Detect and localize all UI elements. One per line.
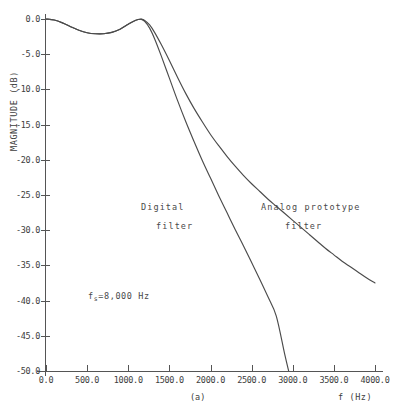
y-tick-mark [41,336,50,337]
y-tick-label: -5.0 [0,49,40,59]
y-tick-label: -20.0 [0,155,40,165]
y-tick-label: -10.0 [0,84,40,94]
y-tick-mark [41,265,50,266]
x-tick-mark [293,365,294,372]
y-tick-label: -35.0 [0,260,40,270]
y-tick-label: -15.0 [0,120,40,130]
y-tick-mark [41,160,50,161]
x-tick-mark [169,365,170,372]
x-axis-title: f (Hz) [338,392,372,402]
sampling-frequency-annotation: fs=8,000 Hz [88,291,150,303]
y-tick-label: -25.0 [0,190,40,200]
analog-prototype-filter-curve [46,19,375,283]
x-tick-mark [87,365,88,372]
x-tick-mark [211,365,212,372]
y-tick-label: -40.0 [0,296,40,306]
y-tick-mark [41,54,50,55]
y-tick-label: -45.0 [0,331,40,341]
sampling-frequency-value: =8,000 Hz [98,291,149,301]
analog-filter-label-line2: filter [285,221,322,231]
y-axis-title: MAGNITUDE (dB) [9,51,19,171]
x-tick-mark [334,365,335,372]
figure-caption: (a) [190,392,205,402]
analog-filter-label-line1: Analog prototype [261,202,360,212]
y-tick-mark [41,125,50,126]
y-tick-label: -30.0 [0,225,40,235]
x-tick-mark [128,365,129,372]
y-tick-mark [41,89,50,90]
y-tick-label: 0.0 [0,14,40,24]
digital-filter-label-line1: Digital [141,202,185,212]
figure-canvas: 0.0-5.0-10.0-15.0-20.0-25.0-30.0-35.0-40… [0,0,412,415]
digital-filter-label-line2: filter [156,221,193,231]
x-tick-label: 4000.0 [345,375,405,385]
y-tick-mark [41,19,50,20]
x-tick-mark [46,365,47,372]
x-tick-mark [375,365,376,372]
y-tick-mark [41,195,50,196]
x-tick-mark [252,365,253,372]
y-tick-mark [41,230,50,231]
y-tick-mark [41,301,50,302]
digital-filter-curve [46,19,289,371]
